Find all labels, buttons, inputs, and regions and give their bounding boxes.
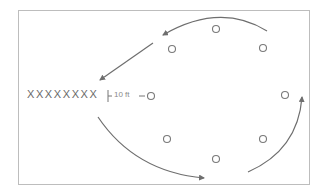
cone-icon [260,45,267,52]
distance-label: 10 ft [114,90,130,99]
lower-left-arc-arrow [98,117,204,178]
lower-right-arc-arrow [248,97,302,172]
cone-icon [164,136,171,143]
cone-icon [213,156,220,163]
cones [148,26,289,163]
diagonal-arrow [100,43,153,80]
cone-icon [148,93,155,100]
cone-icon [282,92,289,99]
drill-diagram [0,0,325,196]
cone-icon [213,26,220,33]
cone-icon [260,136,267,143]
cone-icon [169,46,176,53]
